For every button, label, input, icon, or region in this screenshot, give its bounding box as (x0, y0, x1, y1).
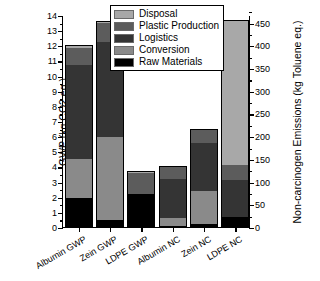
y-axis-right-tick-label: 200 (255, 133, 270, 142)
y-axis-left-tick (58, 31, 63, 32)
y-axis-left-tick (58, 77, 63, 78)
y-axis-right-tick (249, 46, 254, 47)
y-axis-right-minor-tick (249, 149, 252, 150)
y-axis-left-tick-label: 4 (52, 163, 57, 172)
legend-item-disposal[interactable]: Disposal (114, 8, 219, 20)
x-axis-tick-label: LDPE NC (186, 234, 245, 274)
legend-item-conversion[interactable]: Conversion (114, 44, 219, 56)
legend-item-plastic-production[interactable]: Plastic Production (114, 20, 219, 32)
bar-segment-disposal (65, 45, 93, 47)
y-axis-left-minor-tick (60, 54, 63, 55)
legend-label: Conversion (139, 45, 190, 55)
y-axis-left-tick-label: 7 (52, 118, 57, 127)
y-axis-right-tick-label: 300 (255, 87, 270, 96)
y-axis-right-minor-tick (249, 194, 252, 195)
y-axis-left-minor-tick (60, 99, 63, 100)
y-axis-right-tick-label: 150 (255, 155, 270, 164)
y-axis-left-tick-label: 10 (47, 72, 57, 81)
y-axis-left-minor-tick (60, 24, 63, 25)
legend-swatch (114, 10, 134, 19)
y-axis-left-tick (58, 198, 63, 199)
y-axis-left-minor-tick (60, 175, 63, 176)
y-axis-right-tick (249, 183, 254, 184)
y-axis-right-minor-tick (249, 217, 252, 218)
x-axis-tick (79, 227, 80, 232)
y-axis-left-tick-label: 12 (47, 42, 57, 51)
x-axis-tick (235, 227, 236, 232)
bar-segment-raw-materials (127, 194, 155, 227)
bar-segment-plastic-production (159, 166, 187, 180)
y-axis-left-tick-label: 5 (52, 148, 57, 157)
y-axis-right-minor-tick (249, 12, 252, 13)
y-axis-left-tick (58, 92, 63, 93)
bar-segment-raw-materials (96, 220, 124, 227)
y-axis-left-tick (58, 137, 63, 138)
legend-item-raw-materials[interactable]: Raw Materials (114, 56, 219, 68)
legend-label: Plastic Production (139, 21, 219, 31)
bar-segment-disposal (221, 20, 249, 165)
y-axis-left-tick-label: 1 (52, 208, 57, 217)
y-axis-right-minor-tick (249, 58, 252, 59)
y-axis-right-tick-label: 0 (255, 224, 260, 233)
legend-label: Raw Materials (139, 57, 202, 67)
y-axis-right-tick-label: 50 (255, 201, 265, 210)
y-axis-left-tick-label: 9 (52, 87, 57, 96)
y-axis-left-tick-label: 13 (47, 27, 57, 36)
y-axis-left-tick-label: 14 (47, 12, 57, 21)
y-axis-left-tick (58, 107, 63, 108)
legend-swatch (114, 34, 134, 43)
y-axis-left-minor-tick (60, 160, 63, 161)
bar-segment-conversion (96, 137, 124, 220)
y-axis-left-tick-label: 11 (48, 57, 57, 66)
y-axis-left-tick (58, 213, 63, 214)
bar-segment-raw-materials (221, 217, 249, 227)
y-axis-left-tick (58, 46, 63, 47)
y-axis-left-tick (58, 152, 63, 153)
y-axis-left-minor-tick (60, 205, 63, 206)
y-axis-right-minor-tick (249, 103, 252, 104)
x-axis-tick (110, 227, 111, 232)
y-axis-right-minor-tick (249, 171, 252, 172)
bar-segment-logistics (65, 65, 93, 159)
y-axis-left-tick-label: 2 (52, 193, 57, 202)
y-axis-left-minor-tick (60, 39, 63, 40)
bar-segment-conversion (65, 159, 93, 198)
y-axis-right-tick (249, 205, 254, 206)
chart-legend: DisposalPlastic ProductionLogisticsConve… (110, 5, 224, 71)
y-axis-left-minor-tick (60, 130, 63, 131)
legend-label: Logistics (139, 33, 178, 43)
y-axis-right-tick-label: 250 (255, 110, 270, 119)
bar-segment-logistics (221, 180, 249, 217)
y-axis-left-minor-tick (60, 84, 63, 85)
legend-label: Disposal (139, 9, 177, 19)
y-axis-right-tick-label: 100 (255, 178, 270, 187)
bar-segment-plastic-production (190, 129, 218, 143)
y-axis-right-tick (249, 114, 254, 115)
legend-item-logistics[interactable]: Logistics (114, 32, 219, 44)
bar-segment-conversion (190, 191, 218, 224)
y-axis-left-minor-tick (60, 190, 63, 191)
x-axis-tick (204, 227, 205, 232)
y-axis-left-tick-label: 8 (52, 102, 57, 111)
bar-segment-raw-materials (65, 198, 93, 227)
y-axis-left-tick-label: 0 (52, 224, 57, 233)
y-axis-right-tick (249, 137, 254, 138)
x-axis-tick (141, 227, 142, 232)
y-axis-left-tick (58, 228, 63, 229)
y-axis-left-minor-tick (60, 114, 63, 115)
bar-segment-logistics (190, 143, 218, 191)
y-axis-left-tick (58, 16, 63, 17)
y-axis-left-tick (58, 183, 63, 184)
bar-segment-plastic-production (221, 165, 249, 180)
bar-segment-logistics (159, 179, 187, 218)
y-axis-right-tick (249, 228, 254, 229)
y-axis-right-tick-label: 350 (255, 65, 270, 74)
y-axis-right-tick (249, 24, 254, 25)
bar-segment-disposal (127, 171, 155, 173)
y-axis-left-tick-label: 6 (52, 133, 57, 142)
legend-swatch (114, 58, 134, 67)
y-axis-right-minor-tick (249, 35, 252, 36)
x-axis-tick (173, 227, 174, 232)
y-axis-right-tick (249, 160, 254, 161)
y-axis-right-tick-label: 400 (255, 42, 270, 51)
